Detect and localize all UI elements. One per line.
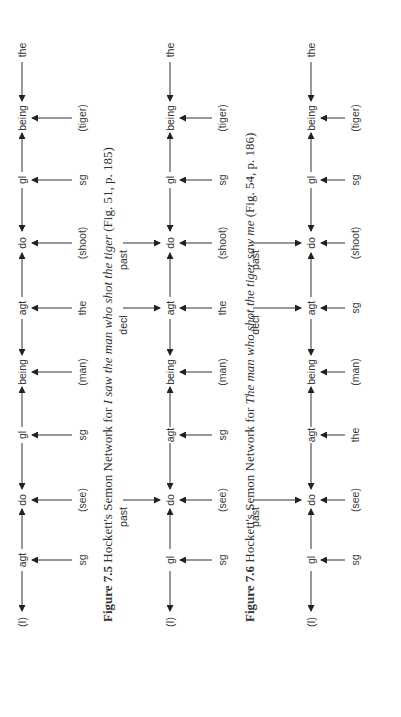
below-label: sg <box>217 174 228 185</box>
spine-node: gl <box>165 556 176 564</box>
spine-node: agt <box>165 301 176 316</box>
spine-node: agt <box>17 301 28 316</box>
spine-node: being <box>17 105 28 131</box>
below-label: sg <box>350 174 361 185</box>
spine-node: gl <box>17 431 28 439</box>
spine-node: do <box>17 494 28 506</box>
spine-node: do <box>306 237 317 249</box>
spine-node: being <box>165 359 176 385</box>
below-label: sg <box>77 554 88 565</box>
modifier-label: past <box>118 250 129 270</box>
spine-node: the <box>17 43 28 58</box>
figure-7-7: past decl past (I) gl do agt being agt d… <box>245 0 375 717</box>
spine-node: being <box>306 105 317 131</box>
below-label: (man) <box>350 358 361 385</box>
rotated-book-page: (I) agt do gl being agt do gl being the … <box>0 0 401 717</box>
below-label: the <box>350 428 361 443</box>
spine-node: do <box>17 237 28 249</box>
below-label: (see) <box>217 488 228 512</box>
spine-node: gl <box>17 176 28 184</box>
modifier-label: past <box>250 507 261 527</box>
figure-7-6: past decl past (I) gl do agt being agt d… <box>100 0 230 717</box>
modifier-label: decl <box>118 315 129 334</box>
spine-node: do <box>306 494 317 506</box>
modifier-label: past <box>250 250 261 270</box>
spine-node: the <box>306 43 317 58</box>
spine-node: gl <box>306 176 317 184</box>
spine-node: (I) <box>306 617 317 627</box>
spine-node: do <box>165 494 176 506</box>
below-label: sg <box>217 554 228 565</box>
spine-node: agt <box>306 428 317 443</box>
spine-node: gl <box>165 176 176 184</box>
spine-node: do <box>165 237 176 249</box>
below-label: sg <box>77 429 88 440</box>
below-label: the <box>217 301 228 316</box>
below-label: (shoot) <box>217 227 228 260</box>
below-label: sg <box>217 429 228 440</box>
below-label: sg <box>350 554 361 565</box>
below-label: (tiger) <box>350 104 361 131</box>
spine-node: (I) <box>17 617 28 627</box>
spine-node: being <box>17 359 28 385</box>
spine-node: agt <box>306 301 317 316</box>
modifier-label: decl <box>250 315 261 334</box>
below-label: (tiger) <box>77 104 88 131</box>
modifier-label: past <box>118 507 129 527</box>
below-label: sg <box>77 174 88 185</box>
spine-node: (I) <box>165 617 176 627</box>
below-label: (see) <box>350 488 361 512</box>
spine-node: the <box>165 43 176 58</box>
below-label: (man) <box>77 358 88 385</box>
spine-node: agt <box>17 553 28 568</box>
below-label: the <box>77 301 88 316</box>
below-label: (see) <box>77 488 88 512</box>
spine-node: being <box>306 359 317 385</box>
below-label: (shoot) <box>77 227 88 260</box>
spine-node: being <box>165 105 176 131</box>
below-label: (shoot) <box>350 227 361 260</box>
spine-node: gl <box>306 556 317 564</box>
below-label: (tiger) <box>217 104 228 131</box>
below-label: (man) <box>217 358 228 385</box>
below-label: sg <box>350 302 361 313</box>
spine-node: agt <box>165 428 176 443</box>
